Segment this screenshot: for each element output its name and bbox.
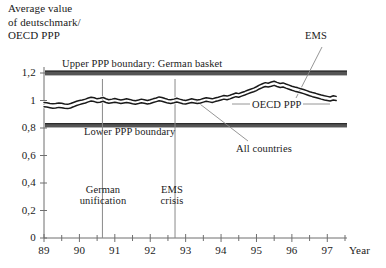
y-tick-label: 0,2 xyxy=(8,204,36,216)
x-tick-label: 96 xyxy=(280,244,304,256)
x-tick-label: 91 xyxy=(103,244,127,256)
y-tick-label: 0,8 xyxy=(8,121,36,133)
x-tick-label: 94 xyxy=(209,244,233,256)
x-tick-label: 90 xyxy=(67,244,91,256)
german-unification-label: German unification xyxy=(74,184,132,206)
chart-figure: Average value of deutschmark/ OECD PPP 0… xyxy=(0,0,386,268)
all-countries-label: All countries xyxy=(236,143,292,154)
x-tick-label: 95 xyxy=(244,244,268,256)
band-edge xyxy=(45,71,347,72)
y-tick-label: 1,2 xyxy=(8,66,36,78)
x-tick-label: 97 xyxy=(315,244,339,256)
x-axis-title: Year xyxy=(349,244,370,256)
all-countries-leader xyxy=(196,101,248,141)
chart-canvas xyxy=(0,0,386,268)
x-tick-label: 89 xyxy=(32,244,56,256)
ems-label: EMS xyxy=(305,30,327,41)
upper-boundary-label: Upper PPP boundary: German basket xyxy=(62,58,222,69)
x-tick-label: 93 xyxy=(174,244,198,256)
x-tick-label: 92 xyxy=(138,244,162,256)
oecd-ppp-label: OECD PPP xyxy=(252,99,302,110)
y-tick-label: 0 xyxy=(8,231,36,243)
lower-boundary-label: Lower PPP boundary xyxy=(84,126,175,137)
ems-crisis-label: EMS crisis xyxy=(150,184,194,206)
y-tick-label: 0,4 xyxy=(8,176,36,188)
y-tick-label: 0,6 xyxy=(8,149,36,161)
band-edge xyxy=(45,123,347,124)
y-tick-label: 1 xyxy=(8,94,36,106)
